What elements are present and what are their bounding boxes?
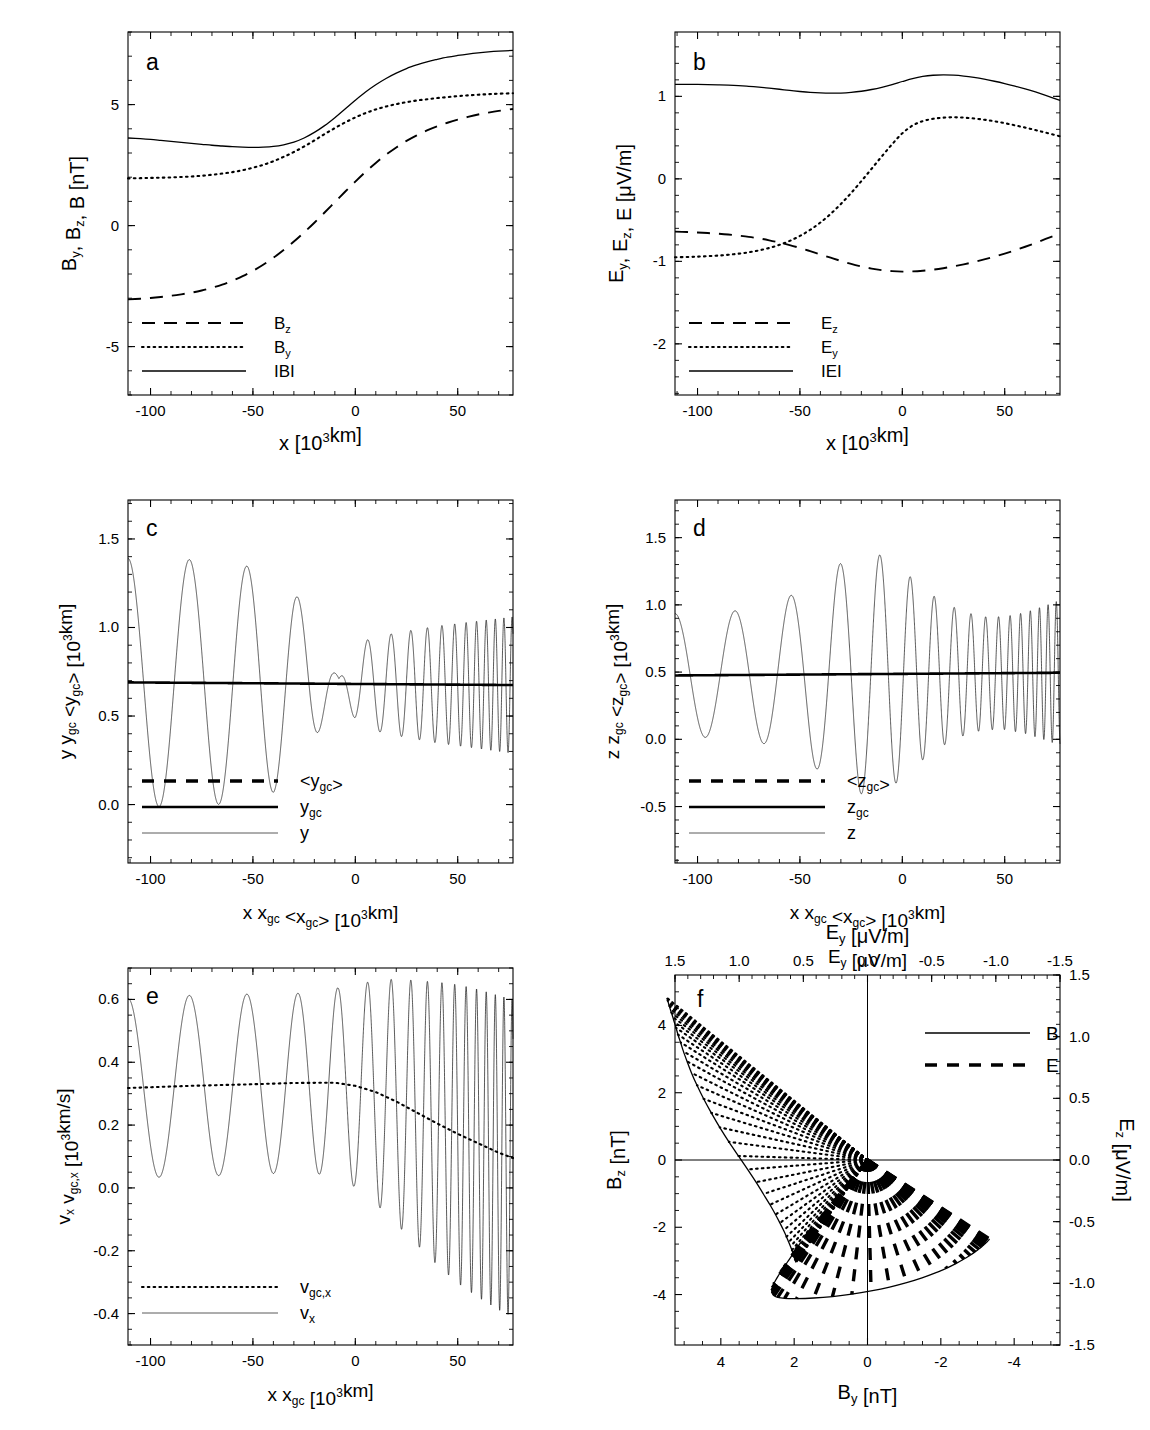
B-ray [668,1003,867,1160]
curve-b-Ey [675,117,1060,257]
y-axis-label-f: Bz [nT] [603,1130,629,1190]
x-axis-label-a: x [103km] [279,424,362,454]
legend-label-a-1: By [274,338,291,359]
legend-label-a-2: IBI [274,362,295,381]
plot-frame-a [128,32,513,395]
y-tick-label-b: 1 [658,87,666,104]
B-ray [692,1073,868,1160]
y-axis-label-a: By, Bz, B [nT] [58,156,88,271]
y-tick-label-d: 1.0 [645,596,666,613]
y-tick-label-e: 0.0 [98,1179,119,1196]
legend-label-f-1: E [1046,1055,1059,1076]
x-tick-label-c: 0 [351,870,359,887]
f-y-tick-label: 2 [658,1084,666,1101]
x-tick-label-b: -50 [789,402,811,419]
x-tick-label-a: 0 [351,402,359,419]
B-ray [683,1051,867,1160]
curve-a-IBI [128,50,513,147]
curve-a-Bz [128,109,513,299]
x-tick-label-d: -50 [789,870,811,887]
y-tick-label-d: 1.5 [645,529,666,546]
y-tick-label-e: -0.4 [93,1305,119,1322]
f-y-tick-label: -2 [653,1218,666,1235]
x-tick-label-c: -100 [136,870,166,887]
y-tick-label-b: 0 [658,170,666,187]
y-tick-label-b: -1 [653,252,666,269]
panel-label-c: c [146,515,158,541]
y-tick-label-c: 0.0 [98,796,119,813]
panel-label-a: a [146,49,159,75]
x-tick-label-d: 0 [898,870,906,887]
guiding-center-trace-d [675,673,1060,676]
y-tick-label-a: -5 [106,338,119,355]
legend-label-b-0: Ez [821,314,838,335]
panel-label-e: e [146,983,159,1009]
f-xtop-tick-label: 1.5 [665,952,686,969]
B-ray [669,1006,867,1160]
y-axis-label-b: Ey, Ez, E [μV/m] [605,144,635,283]
y-tick-label-d: 0.0 [645,730,666,747]
x-axis-label-b: x [103km] [826,424,909,454]
y-tick-label-e: 0.2 [98,1116,119,1133]
legend-label-d-0: <zgc> [847,771,890,795]
y-tick-label-e: 0.6 [98,990,119,1007]
y-axis-label-d: z zgc <zgc> [103km] [602,604,631,760]
oscillation-trace-e [128,979,513,1314]
y-tick-label-a: 0 [111,217,119,234]
x-tick-label-b: 0 [898,402,906,419]
legend-label-e-1: vx [300,1303,315,1326]
panel-label-b: b [693,49,706,75]
f-yright-tick-label: 0.0 [1069,1151,1090,1168]
f-x-tick-label: -2 [934,1353,947,1370]
f-yright-tick-label: 1.5 [1069,966,1090,983]
legend-label-a-0: Bz [274,314,291,335]
plot-frame-b [675,32,1060,395]
legend-label-e-0: vgc,x [300,1277,331,1300]
f-xtop-tick-label: 0.5 [793,952,814,969]
x-axis-label-f-top: Ey [μV/m] [826,921,910,947]
f-y-tick-label: 4 [658,1016,666,1033]
legend-label-b-2: IEI [821,362,842,381]
y-tick-label-e: -0.2 [93,1242,119,1259]
curve-a-By [128,93,513,178]
panel-label-d: d [693,515,706,541]
y-tick-label-e: 0.4 [98,1053,119,1070]
y-tick-label-d: -0.5 [640,798,666,815]
x-tick-label-b: 50 [996,402,1013,419]
E-ray [868,1160,936,1273]
x-tick-label-e: 50 [449,1352,466,1369]
y-axis-label-f-right: Ez [μV/m] [1112,1118,1138,1202]
E-ray [868,1160,872,1291]
legend-label-d-2: z [847,823,856,843]
B-ray [711,1113,867,1160]
f-xtop-tick-label: 1.0 [729,952,750,969]
f-yright-tick-label: -0.5 [1069,1213,1095,1230]
B-vector-rays [667,998,868,1263]
legend-label-c-1: ygc [300,797,322,820]
x-axis-label-e: x xgc [103km] [268,1380,374,1409]
f-xtop-tick-label: -0.5 [919,952,945,969]
f-y-tick-label: 0 [658,1151,666,1168]
curve-b-Ez [675,232,1060,272]
y-tick-label-b: -2 [653,335,666,352]
y-axis-label-c: y ygc <ygc> [103km] [55,604,84,760]
x-tick-label-a: 50 [449,402,466,419]
x-tick-label-a: -100 [136,402,166,419]
x-tick-label-c: -50 [242,870,264,887]
f-xtop-tick-label: -1.0 [983,952,1009,969]
x-tick-label-b: -100 [683,402,713,419]
legend-label-f-0: B [1046,1023,1059,1044]
x-axis-label-f: By [nT] [838,1381,898,1407]
x-tick-label-c: 50 [449,870,466,887]
legend-label-d-1: zgc [847,797,869,820]
figure-panel-grid: -100-5005050-5aBzByIBIx [103km]By, Bz, B… [0,0,1150,1430]
curve-b-IEI [675,75,1060,101]
legend-label-b-1: Ey [821,338,838,359]
B-ray [704,1099,868,1160]
x-axis-label-c: x xgc <xgc> [103km] [243,902,399,931]
f-x-tick-label: 0 [863,1353,871,1370]
y-tick-label-c: 1.5 [98,530,119,547]
E-envelope-curve [772,1239,990,1299]
B-ray [667,998,868,1160]
f-y-tick-label: -4 [653,1286,666,1303]
